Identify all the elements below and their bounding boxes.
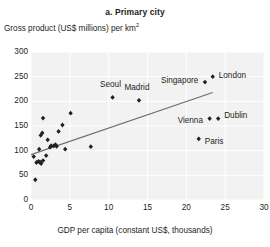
data-point: [32, 154, 36, 159]
x-tick-label: 25: [210, 204, 240, 212]
y-tick-label: 150: [2, 122, 28, 130]
data-point: [89, 144, 93, 149]
data-point-labeled: [137, 98, 141, 103]
data-point: [45, 137, 49, 142]
point-label-dublin: Dublin: [224, 112, 247, 120]
y-tick-label: 0: [2, 196, 28, 204]
data-point: [33, 177, 37, 182]
data-point: [68, 111, 72, 116]
x-axis-label: GDP per capita (constant US$, thousands): [0, 226, 270, 235]
data-point: [41, 116, 45, 121]
scatter-chart-figure: a. Primary city Gross product (US$ milli…: [0, 0, 270, 247]
y-axis-tick-labels: 050100150200250300: [0, 52, 28, 200]
y-tick-label: 100: [2, 147, 28, 155]
point-label-london: London: [219, 72, 246, 80]
x-tick-label: 5: [55, 204, 85, 212]
y-axis-label: Gross product (US$ millions) per km2: [4, 24, 139, 33]
data-point: [44, 153, 48, 158]
point-label-madrid: Madrid: [124, 84, 149, 92]
point-label-paris: Paris: [205, 138, 224, 146]
x-tick-label: 10: [94, 204, 124, 212]
chart-title: a. Primary city: [0, 7, 270, 17]
y-tick-label: 200: [2, 97, 28, 105]
data-point-labeled: [197, 136, 201, 141]
x-tick-label: 20: [171, 204, 201, 212]
y-tick-label: 250: [2, 73, 28, 81]
data-point-labeled: [207, 116, 211, 121]
x-tick-label: 15: [133, 204, 163, 212]
point-label-vienna: Vienna: [178, 117, 203, 125]
data-point-labeled: [216, 116, 220, 121]
data-point-labeled: [203, 80, 207, 85]
point-label-singapore: Singapore: [161, 77, 198, 85]
x-tick-label: 30: [249, 204, 270, 212]
x-tick-label: 0: [16, 204, 46, 212]
y-tick-label: 300: [2, 48, 28, 56]
point-label-seoul: Seoul: [100, 81, 121, 89]
data-point-labeled: [211, 74, 215, 79]
data-point-labeled: [110, 95, 114, 100]
y-tick-label: 50: [2, 171, 28, 179]
data-point: [60, 123, 64, 128]
data-point: [56, 129, 60, 134]
x-axis-tick-labels: 051015202530: [31, 204, 264, 218]
